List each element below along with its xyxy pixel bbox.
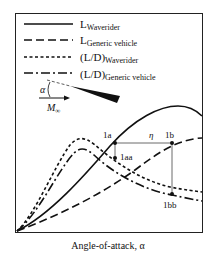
wedge-body-icon [70,86,120,103]
diagram-canvas: LWaverider LGeneric vehicle (L/D)Waverid… [0,0,213,261]
legend-label-4: (L/D)Generic vehicle [80,68,156,82]
point-1aa [113,156,117,160]
legend-label-2: LGeneric vehicle [80,34,138,48]
point-1a [113,141,117,145]
point-1b [170,141,174,145]
inset-wedge-diagram: α M∞ [39,80,120,115]
alpha-arc-icon [48,82,50,97]
label-1a: 1a [103,130,112,140]
point-1bb [170,192,174,196]
label-1b: 1b [165,130,175,140]
curve-LD-waverider [17,139,202,231]
mach-label: M∞ [46,102,60,115]
label-eta: η [149,130,154,140]
reference-line [47,80,70,86]
alpha-label: α [40,84,46,95]
legend-label-1: LWaverider [80,18,120,32]
curves [17,106,202,231]
legend-label-3: (L/D)Waverider [80,51,138,65]
label-1aa: 1aa [120,152,133,162]
label-1bb: 1bb [163,200,177,210]
curve-L-generic [17,138,202,231]
legend: LWaverider LGeneric vehicle (L/D)Waverid… [24,18,156,82]
arrowhead-icon [64,96,70,101]
x-axis-label: Angle-of-attack, α [71,240,145,251]
